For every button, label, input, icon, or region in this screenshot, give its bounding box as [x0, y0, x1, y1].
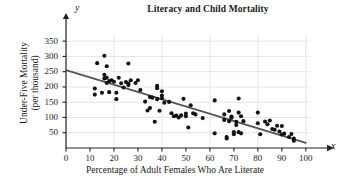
y-tick-label: 100 [34, 113, 58, 122]
data-point [275, 124, 279, 128]
data-point [150, 96, 154, 100]
data-point [193, 112, 197, 116]
y-axis-arrowhead [63, 13, 69, 19]
data-point [258, 132, 262, 136]
data-point [239, 131, 243, 135]
data-point [93, 93, 97, 97]
data-point [126, 83, 130, 87]
data-point [289, 132, 293, 136]
data-point [273, 128, 277, 132]
data-point [126, 61, 130, 65]
x-tick-label: 70 [224, 154, 244, 163]
data-point [153, 120, 157, 124]
x-tick-label: 30 [128, 154, 148, 163]
data-point [138, 88, 142, 92]
chart-figure: Literacy and Child Mortality y x Under-F… [0, 0, 345, 189]
data-point [107, 90, 111, 94]
data-point [114, 97, 118, 101]
y-tick-label: 250 [34, 67, 58, 76]
data-point [222, 112, 226, 116]
data-point [105, 64, 109, 68]
data-point [114, 91, 118, 95]
data-points [93, 54, 296, 143]
data-point [129, 78, 133, 82]
scatter-plot-canvas [0, 0, 345, 189]
y-tick-label: 150 [34, 98, 58, 107]
data-point [157, 109, 161, 113]
x-tick-label: 40 [152, 154, 172, 163]
data-point [292, 136, 296, 140]
data-point [148, 106, 152, 110]
regression-line [66, 70, 306, 143]
data-point [213, 98, 217, 102]
x-tick-label: 10 [80, 154, 100, 163]
y-tick-label: 200 [34, 82, 58, 91]
x-tick-label: 100 [296, 154, 316, 163]
x-tick-label: 50 [176, 154, 196, 163]
data-point [201, 116, 205, 120]
data-point [184, 114, 188, 118]
data-point [100, 91, 104, 95]
data-point [122, 86, 126, 90]
x-tick-label: 20 [104, 154, 124, 163]
data-point [256, 121, 260, 125]
data-point [143, 100, 147, 104]
x-tick-label: 80 [248, 154, 268, 163]
data-point [155, 97, 159, 101]
data-point [160, 89, 164, 93]
data-point [102, 54, 106, 58]
trend-line [66, 70, 306, 143]
data-point [119, 81, 123, 85]
data-point [167, 100, 171, 104]
data-point [239, 114, 243, 118]
y-tick-label: 50 [34, 128, 58, 137]
data-point [237, 97, 241, 101]
data-point [160, 96, 164, 100]
data-point [280, 124, 284, 128]
data-point [117, 76, 121, 80]
data-point [229, 116, 233, 120]
data-point [105, 76, 109, 80]
data-point [265, 122, 269, 126]
data-point [225, 135, 229, 139]
data-point [162, 101, 166, 105]
data-point [213, 131, 217, 135]
data-point [227, 119, 231, 123]
x-tick-label: 60 [200, 154, 220, 163]
data-point [241, 119, 245, 123]
data-point [155, 86, 159, 90]
axis-ticks [63, 41, 306, 151]
data-point [112, 80, 116, 84]
data-point [227, 109, 231, 113]
data-point [186, 126, 190, 130]
data-point [282, 132, 286, 136]
data-point [234, 123, 238, 127]
data-point [93, 86, 97, 90]
data-point [268, 118, 272, 122]
data-point [181, 97, 185, 101]
data-point [237, 111, 241, 115]
data-point [95, 61, 99, 65]
y-tick-label: 300 [34, 52, 58, 61]
data-point [256, 111, 260, 115]
x-tick-label: 0 [56, 154, 76, 163]
data-point [222, 118, 226, 122]
y-tick-label: 350 [34, 37, 58, 46]
data-point [189, 103, 193, 107]
data-point [179, 113, 183, 117]
x-axis-arrowhead [327, 145, 334, 151]
data-point [136, 78, 140, 82]
data-point [232, 130, 236, 134]
x-tick-label: 90 [272, 154, 292, 163]
